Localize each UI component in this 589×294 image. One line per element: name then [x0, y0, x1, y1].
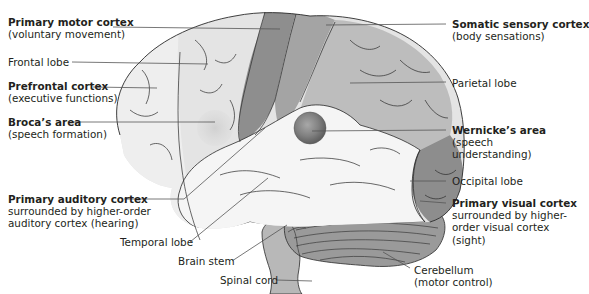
label-title: Primary auditory cortex: [8, 193, 151, 205]
label-desc: surrounded by higher-: [452, 209, 577, 221]
label-occipital-lobe: Occipital lobe: [452, 175, 523, 187]
label-desc: (executive functions): [8, 92, 118, 104]
label-primary-auditory-cortex: Primary auditory cortex surrounded by hi…: [8, 193, 151, 230]
label-title: Somatic sensory cortex: [452, 18, 589, 30]
label-desc: (speech formation): [8, 128, 107, 140]
label-parietal-lobe: Parietal lobe: [452, 77, 517, 89]
label-desc: order visual cortex: [452, 221, 577, 233]
label-wernickes-area: Wernicke’s area (speech understanding): [452, 124, 546, 161]
label-primary-visual-cortex: Primary visual cortex surrounded by high…: [452, 197, 577, 246]
label-desc: (body sensations): [452, 30, 589, 42]
label-desc: (voluntary movement): [8, 28, 134, 40]
label-desc: (speech: [452, 136, 546, 148]
label-title: Wernicke’s area: [452, 124, 546, 136]
wernicke-area-region: [294, 112, 326, 144]
label-title: Temporal lobe: [120, 236, 193, 248]
label-title: Frontal lobe: [8, 56, 69, 68]
label-frontal-lobe: Frontal lobe: [8, 56, 69, 68]
label-title: Brain stem: [178, 255, 235, 267]
label-brocas-area: Broca’s area (speech formation): [8, 116, 107, 140]
label-cerebellum: Cerebellum (motor control): [414, 264, 493, 288]
label-title: Primary visual cortex: [452, 197, 577, 209]
label-title: Occipital lobe: [452, 175, 523, 187]
label-desc: understanding): [452, 148, 546, 160]
label-title: Prefrontal cortex: [8, 80, 118, 92]
label-somatic-sensory-cortex: Somatic sensory cortex (body sensations): [452, 18, 589, 42]
label-primary-motor-cortex: Primary motor cortex (voluntary movement…: [8, 16, 134, 40]
label-desc: auditory cortex (hearing): [8, 217, 151, 229]
label-title: Broca’s area: [8, 116, 107, 128]
label-title: Parietal lobe: [452, 77, 517, 89]
label-prefrontal-cortex: Prefrontal cortex (executive functions): [8, 80, 118, 104]
label-desc: (sight): [452, 234, 577, 246]
label-title: Spinal cord: [220, 274, 278, 286]
label-title: Primary motor cortex: [8, 16, 134, 28]
label-temporal-lobe: Temporal lobe: [120, 236, 193, 248]
broca-area-region: [197, 110, 233, 146]
label-desc: surrounded by higher-order: [8, 205, 151, 217]
label-brain-stem: Brain stem: [178, 255, 235, 267]
label-spinal-cord: Spinal cord: [220, 274, 278, 286]
label-desc: (motor control): [414, 276, 493, 288]
label-title: Cerebellum: [414, 264, 493, 276]
